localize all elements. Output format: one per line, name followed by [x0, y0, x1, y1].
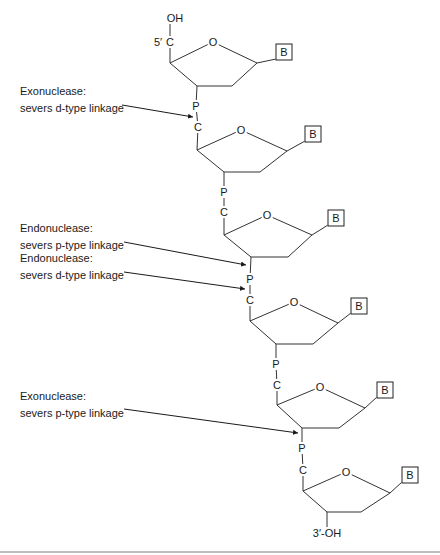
ring-bond	[250, 321, 276, 344]
ring-bond	[361, 493, 390, 512]
base-box: B	[351, 298, 368, 315]
ring-bond	[224, 235, 251, 257]
phosphorus-label: P	[191, 100, 200, 112]
phosphorus-label: P	[271, 358, 280, 370]
ring-oxygen-label: O	[208, 36, 219, 48]
ring-bond	[224, 215, 267, 235]
carbon-5prime-label: C	[219, 206, 229, 218]
ring-oxygen-label: O	[236, 124, 247, 136]
ring-oxygen-label: O	[289, 296, 300, 308]
ring-bond	[197, 150, 224, 172]
ring-bond	[232, 63, 257, 86]
nuclease-annotation: Endonuclease:severs d-type linkage	[20, 252, 124, 282]
cleavage-arrow-icon	[122, 105, 193, 117]
base-box: B	[402, 467, 419, 484]
ring-bond	[294, 302, 338, 323]
nuclease-annotation: Exonuclease:severs p-type linkage	[20, 390, 124, 420]
three-prime-oh-label: 3′-OH	[312, 527, 342, 539]
ring-bond	[288, 235, 312, 257]
linkage-description-label: severs d-type linkage	[20, 269, 124, 282]
glycosidic-bond	[257, 59, 276, 63]
linkage-description-label: severs d-type linkage	[20, 102, 124, 115]
glycosidic-bond	[312, 225, 328, 235]
five-prime-label: 5′	[153, 36, 163, 48]
ring-oxygen-label: O	[262, 209, 273, 221]
ring-bond	[320, 387, 365, 408]
nuclease-annotation: Exonuclease:severs d-type linkage	[20, 85, 124, 115]
ring-bond	[260, 151, 287, 172]
nuclease-type-label: Exonuclease:	[20, 85, 124, 98]
base-box: B	[305, 126, 322, 143]
glycosidic-bond	[287, 141, 305, 151]
bottom-divider	[0, 551, 440, 553]
nuclease-annotation: Endonuclease:severs p-type linkage	[20, 222, 124, 252]
base-box: B	[328, 210, 345, 227]
ring-bond	[303, 491, 327, 512]
five-prime-oh-label: OH	[166, 12, 185, 24]
carbon-5prime-label: C	[298, 464, 308, 476]
phosphorus-label: P	[297, 442, 306, 454]
ring-bond	[346, 472, 390, 493]
glycosidic-bond	[390, 482, 402, 493]
base-box: B	[276, 44, 293, 61]
ring-bond	[170, 63, 197, 86]
nuclease-type-label: Exonuclease:	[20, 390, 124, 403]
carbon-5prime-label: C	[165, 36, 175, 48]
ring-bond	[170, 42, 213, 63]
glycosidic-bond	[338, 313, 351, 323]
ring-bond	[277, 405, 302, 428]
linkage-description-label: severs p-type linkage	[20, 407, 124, 420]
ring-bond	[277, 387, 320, 405]
phosphorus-label: P	[245, 273, 254, 285]
ring-bond	[267, 215, 312, 235]
glycosidic-bond	[365, 397, 377, 408]
carbon-5prime-label: C	[272, 379, 282, 391]
ring-bond	[241, 130, 287, 151]
ring-oxygen-label: O	[341, 466, 352, 478]
base-box: B	[377, 382, 394, 399]
cleavage-arrow-icon	[124, 409, 298, 433]
nuclease-type-label: Endonuclease:	[20, 252, 124, 265]
ring-bond	[339, 408, 365, 428]
ring-bond	[250, 302, 294, 321]
cleavage-arrow-icon	[124, 242, 246, 265]
cleavage-arrow-icon	[124, 272, 245, 289]
carbon-5prime-label: C	[245, 294, 255, 306]
carbon-5prime-label: C	[193, 121, 203, 133]
phosphorus-label: P	[219, 186, 228, 198]
dna-nuclease-diagram: COBPCOBPCOBPCOBPCOBPCOBOH5′3′-OH Exonucl…	[0, 0, 440, 555]
ring-bond	[313, 323, 338, 344]
ring-bond	[303, 472, 346, 491]
linkage-description-label: severs p-type linkage	[20, 239, 124, 252]
ring-oxygen-label: O	[315, 381, 326, 393]
ring-bond	[213, 42, 257, 63]
nuclease-type-label: Endonuclease:	[20, 222, 124, 235]
ring-bond	[197, 130, 241, 150]
